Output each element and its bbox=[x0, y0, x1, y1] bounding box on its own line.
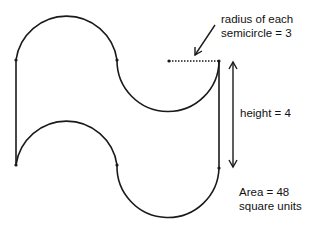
top-boundary-curve bbox=[16, 16, 219, 111]
area-label-line2: square units bbox=[239, 199, 302, 213]
radius-label: radius of each semicircle = 3 bbox=[221, 12, 293, 40]
radius-label-line1: radius of each bbox=[221, 12, 293, 26]
area-label: Area = 48 square units bbox=[239, 185, 302, 213]
radius-label-line2: semicircle = 3 bbox=[221, 26, 293, 40]
radius-pointer-arrow bbox=[195, 25, 215, 55]
height-label: height = 4 bbox=[240, 106, 291, 120]
height-arrow bbox=[229, 62, 237, 167]
bottom-boundary-curve bbox=[16, 121, 219, 217]
area-label-line1: Area = 48 bbox=[239, 185, 302, 199]
